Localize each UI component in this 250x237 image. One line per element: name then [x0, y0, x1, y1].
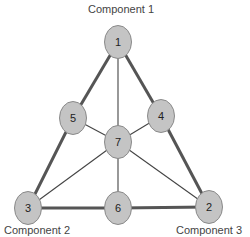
edge-3-7 [28, 142, 118, 208]
graph-canvas: 1234567 [0, 0, 250, 237]
node-6: 6 [105, 192, 132, 225]
node-label: 7 [115, 136, 121, 148]
component-2-label: Component 2 [4, 224, 70, 236]
node-label: 6 [115, 202, 121, 214]
node-5: 5 [60, 102, 87, 135]
node-label: 2 [206, 201, 212, 213]
node-1: 1 [105, 26, 132, 59]
edge-2-7 [118, 142, 209, 207]
node-label: 4 [158, 110, 164, 122]
node-2: 2 [196, 191, 223, 224]
node-label: 3 [25, 202, 31, 214]
node-7: 7 [105, 126, 132, 159]
node-3: 3 [15, 192, 42, 225]
edges-layer [28, 42, 209, 208]
node-4: 4 [148, 100, 175, 133]
ternary-diagram: 1234567 Component 1 Component 2 Componen… [0, 0, 250, 237]
node-label: 5 [70, 112, 76, 124]
node-label: 1 [115, 36, 121, 48]
component-3-label: Component 3 [176, 224, 242, 236]
component-1-label: Component 1 [88, 3, 154, 15]
